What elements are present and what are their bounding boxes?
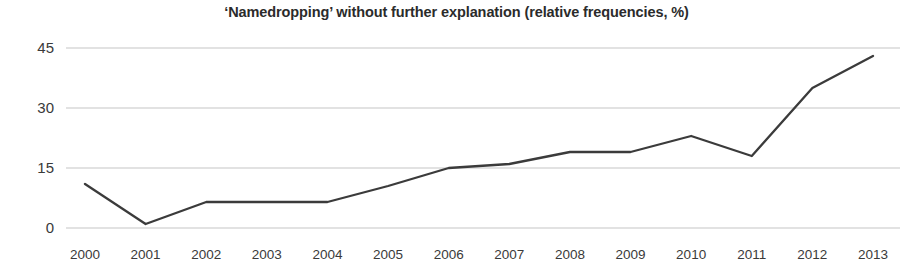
x-tick-label-2000: 2000 <box>57 248 113 262</box>
x-tick-label-2002: 2002 <box>178 248 234 262</box>
x-tick-label-2010: 2010 <box>663 248 719 262</box>
x-tick-label-2007: 2007 <box>481 248 537 262</box>
x-tick-label-2011: 2011 <box>724 248 780 262</box>
data-series-line <box>85 56 873 224</box>
x-tick-label-2008: 2008 <box>542 248 598 262</box>
x-tick-label-2009: 2009 <box>603 248 659 262</box>
y-tick-label-30: 30 <box>10 100 54 115</box>
plot-area: 0153045 20002001200220032004200520062007… <box>0 0 913 277</box>
x-tick-label-2006: 2006 <box>421 248 477 262</box>
y-tick-label-0: 0 <box>10 220 54 235</box>
y-tick-label-15: 15 <box>10 160 54 175</box>
y-tick-label-45: 45 <box>10 40 54 55</box>
chart-container: ‘Namedropping’ without further explanati… <box>0 0 913 277</box>
x-tick-label-2001: 2001 <box>118 248 174 262</box>
x-tick-label-2005: 2005 <box>360 248 416 262</box>
gridlines <box>66 48 900 228</box>
x-tick-label-2013: 2013 <box>845 248 901 262</box>
x-tick-label-2012: 2012 <box>784 248 840 262</box>
chart-svg <box>0 0 913 277</box>
x-tick-label-2004: 2004 <box>299 248 355 262</box>
x-tick-label-2003: 2003 <box>239 248 295 262</box>
series-line-namedropping <box>85 56 873 224</box>
